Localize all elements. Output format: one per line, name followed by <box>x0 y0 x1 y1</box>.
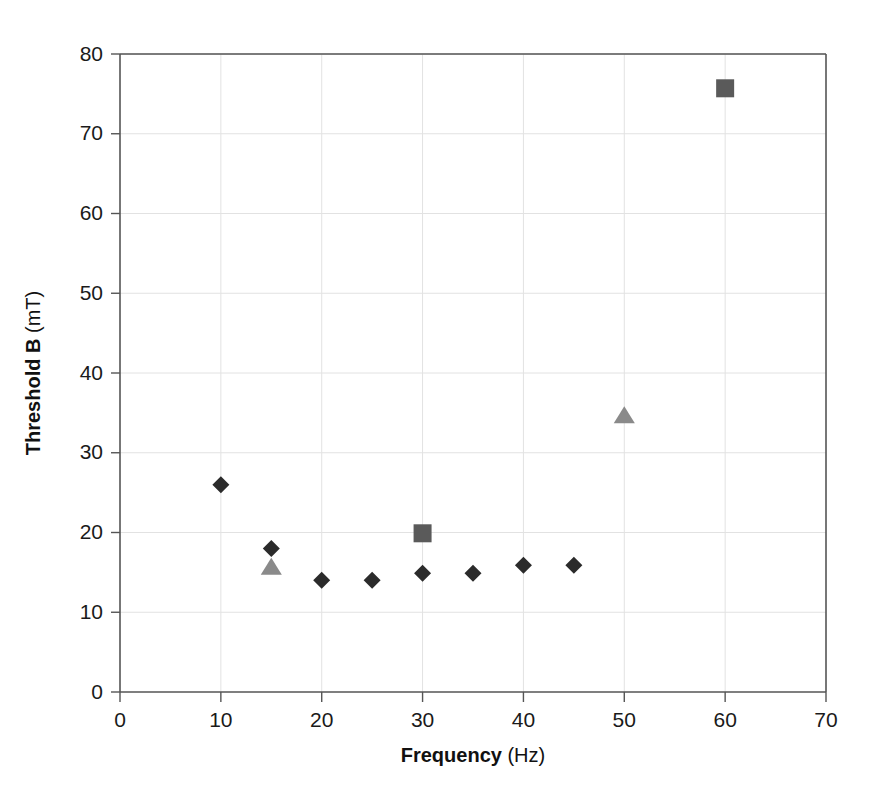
plot-canvas: 01020304050607080 010203040506070 Freque… <box>0 0 872 808</box>
figure-background <box>0 0 872 808</box>
x-axis-title-bold: Frequency <box>401 744 503 766</box>
x-axis-title: Frequency (Hz) <box>401 744 545 766</box>
y-tick-label: 10 <box>80 600 103 623</box>
x-axis-title-unit: (Hz) <box>502 744 545 766</box>
y-axis-title: Threshold B (mT) <box>22 291 44 455</box>
x-tick-label: 60 <box>713 708 736 731</box>
data-point-square <box>414 524 432 542</box>
x-tick-label: 70 <box>814 708 837 731</box>
x-tick-label: 20 <box>310 708 333 731</box>
y-tick-label: 50 <box>80 281 103 304</box>
x-tick-label: 0 <box>114 708 126 731</box>
x-tick-label: 10 <box>209 708 232 731</box>
y-axis-title-unit: (mT) <box>22 291 44 339</box>
x-tick-label: 50 <box>613 708 636 731</box>
x-tick-label: 40 <box>512 708 535 731</box>
y-axis-title-bold: Threshold B <box>22 339 44 456</box>
y-tick-label: 60 <box>80 201 103 224</box>
y-tick-label: 40 <box>80 361 103 384</box>
y-tick-label: 70 <box>80 121 103 144</box>
scatter-plot-figure: 01020304050607080 010203040506070 Freque… <box>0 0 872 808</box>
y-tick-label: 30 <box>80 440 103 463</box>
y-tick-label: 20 <box>80 520 103 543</box>
x-tick-label: 30 <box>411 708 434 731</box>
y-tick-label: 0 <box>91 680 103 703</box>
y-tick-label: 80 <box>80 42 103 65</box>
data-point-square <box>716 79 734 97</box>
